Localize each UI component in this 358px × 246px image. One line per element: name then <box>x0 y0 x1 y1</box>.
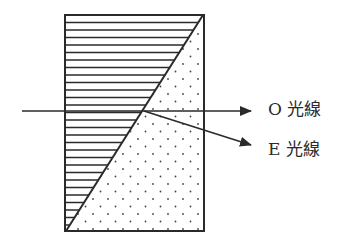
o-ray-label: O 光線 <box>268 99 321 119</box>
e-ray-label: E 光線 <box>268 139 320 159</box>
prism-diagram <box>0 0 358 246</box>
